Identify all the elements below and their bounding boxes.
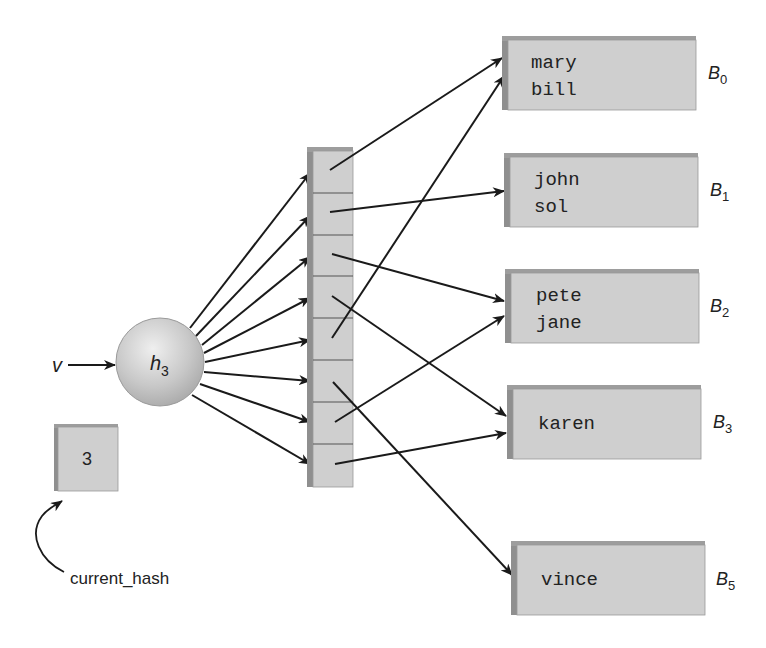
bucket-label: B (713, 412, 725, 432)
bucket-item: john (534, 169, 580, 191)
hash-table-diagram: v h 3 (0, 0, 766, 648)
slot-3-to-B3 (332, 296, 506, 416)
bucket-item: pete (536, 285, 582, 307)
slot-6-to-B2 (335, 316, 504, 422)
bucket-B3: karen B 3 (507, 385, 732, 459)
current-hash-box: 3 (54, 424, 118, 491)
current-hash-label: current_hash (70, 569, 169, 588)
slot-7-to-B3 (335, 433, 506, 464)
input-v: v (52, 354, 115, 376)
bucket-B0: mary bill B 0 (502, 36, 727, 110)
bucket-subscript: 5 (728, 578, 735, 593)
bucket-label: B (708, 63, 720, 83)
bucket-item: sol (534, 196, 568, 218)
bucket-item: jane (536, 312, 582, 334)
hash-function-name: h (150, 352, 161, 374)
bucket-label: B (710, 296, 722, 316)
current-hash-value: 3 (82, 449, 92, 469)
bucket-B1: john sol B 1 (504, 153, 729, 227)
hash-arrows (190, 173, 310, 464)
slot-0-to-B0 (330, 58, 502, 170)
bucket-item: vince (541, 569, 598, 591)
bucket-subscript: 0 (720, 72, 727, 87)
input-label: v (52, 354, 63, 376)
bucket-item: karen (538, 413, 595, 435)
bucket-subscript: 3 (725, 421, 732, 436)
bucket-B2: pete jane B 2 (505, 269, 729, 343)
bucket-label: B (710, 180, 722, 200)
slot-5-to-B5 (333, 382, 512, 575)
slot-2-to-B2 (332, 254, 504, 301)
bucket-pointer-arrows (330, 58, 512, 575)
hash-function-sphere: h 3 (116, 318, 204, 406)
slot-4-to-B0 (332, 76, 504, 338)
bucket-label: B (716, 569, 728, 589)
current-hash-pointer-arrow (36, 501, 64, 572)
bucket-subscript: 1 (722, 189, 729, 204)
bucket-B5: vince B 5 (511, 541, 735, 615)
bucket-item: mary (531, 52, 577, 74)
bucket-subscript: 2 (722, 305, 729, 320)
bucket-item: bill (531, 79, 577, 101)
hash-function-subscript: 3 (161, 363, 169, 379)
